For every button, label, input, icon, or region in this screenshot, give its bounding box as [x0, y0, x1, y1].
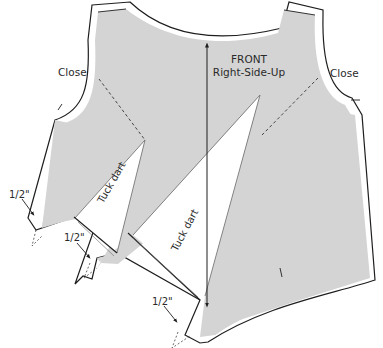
seam-pointer-3 — [164, 306, 176, 321]
close-label-right: Close — [330, 67, 359, 79]
close-label-left: Close — [58, 66, 87, 78]
seam-allowance-label-3: 1/2" — [152, 296, 173, 307]
side-notch-left — [58, 104, 62, 110]
dart-point-1 — [32, 230, 42, 246]
piece-title: FRONT — [231, 53, 267, 65]
pattern-diagram: FRONT Right-Side-Up Close Close Tuck dar… — [0, 0, 383, 348]
seam-allowance-label-1: 1/2" — [9, 189, 30, 200]
seam-allowance-label-2: 1/2" — [64, 232, 85, 243]
piece-subtitle: Right-Side-Up — [213, 66, 286, 78]
